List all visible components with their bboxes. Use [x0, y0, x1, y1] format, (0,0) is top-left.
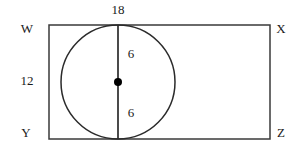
geometry-figure-canvas: W X Y Z 18 12 6 6 — [0, 0, 307, 151]
vertex-label-w: W — [21, 22, 33, 35]
geometry-figure-svg — [0, 0, 307, 151]
measurement-label-left-height: 12 — [21, 74, 34, 87]
measurement-label-top-width: 18 — [112, 3, 125, 16]
circle-center-point — [114, 78, 122, 86]
vertex-label-y: Y — [21, 126, 30, 139]
measurement-label-lower-radius: 6 — [128, 106, 135, 119]
measurement-label-upper-radius: 6 — [128, 47, 135, 60]
vertex-label-x: X — [276, 22, 285, 35]
vertex-label-z: Z — [277, 126, 285, 139]
